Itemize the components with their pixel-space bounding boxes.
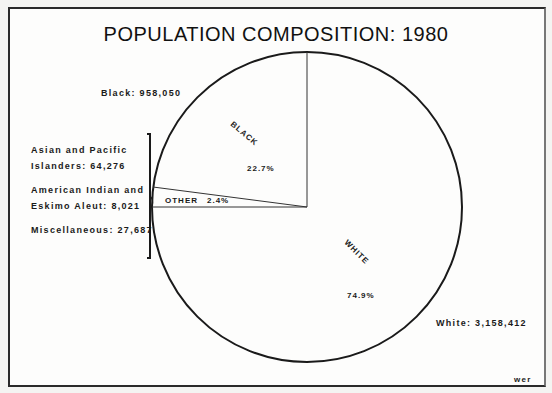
annotation-asian-2: Islanders: 64,276 [31, 161, 126, 171]
slice-percent-white: 74.9% [347, 291, 375, 300]
annotation-white: White: 3,158,412 [436, 318, 527, 328]
annotation-misc: Miscellaneous: 27,687 [31, 225, 153, 235]
slice-percent-black: 22.7% [247, 164, 275, 173]
slice-label-white: WHITE [343, 238, 371, 266]
signature: wer [514, 375, 532, 384]
pie-chart: BLACK 22.7% OTHER 2.4% WHITE 74.9% [0, 0, 552, 393]
other-bracket [147, 134, 150, 258]
annotation-black: Black: 958,050 [101, 88, 181, 98]
slice-label-black: BLACK [229, 120, 260, 148]
annotation-amind-2: Eskimo Aleut: 8,021 [31, 201, 140, 211]
annotation-asian-1: Asian and Pacific [31, 145, 128, 155]
slice-percent-other: 2.4% [207, 196, 229, 205]
slice-label-other: OTHER [165, 196, 198, 205]
annotation-amind-1: American Indian and [31, 185, 144, 195]
